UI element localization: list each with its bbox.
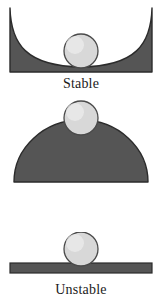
panel-stable: Stable <box>0 0 162 96</box>
ball-highlight-icon <box>66 103 84 121</box>
panel-neutral: Neutral <box>0 232 162 306</box>
ball-highlight-icon <box>66 234 84 252</box>
panel-unstable: Unstable <box>0 100 162 200</box>
equilibrium-diagram: Stable Unstable Neutral <box>0 0 162 306</box>
unstable-graphic <box>0 100 162 184</box>
label-stable: Stable <box>0 76 162 92</box>
stable-graphic <box>0 0 162 76</box>
ball-highlight-icon <box>66 36 84 54</box>
neutral-graphic <box>0 232 162 282</box>
